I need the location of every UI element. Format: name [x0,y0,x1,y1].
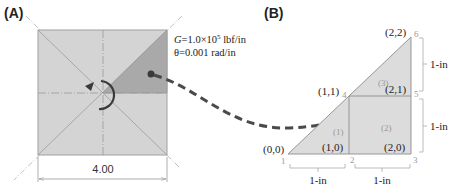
node-4-number: 4 [342,90,347,100]
dimension-bracket-bottom-right [355,164,410,168]
dimension-bracket-bottom-left [290,164,345,168]
node-2-number: 2 [350,155,355,165]
panel-a: (A) 4.00 G=1.0×105 lbf/in θ=0.001 rad/in [4,5,348,182]
node-5-number: 5 [414,89,419,99]
dimension-width-label: 4.00 [92,163,113,175]
node-5-coord: (2,1) [385,83,406,96]
dimension-bracket-right-lower [419,99,423,152]
node-6-coord: (2,2) [385,26,406,39]
dimension-bottom-right-label: 1-in [373,174,391,186]
node-2-coord: (1,0) [322,141,343,154]
diagram-canvas: (A) 4.00 G=1.0×105 lbf/in θ=0.001 rad/in [0,0,455,192]
node-1-coord: (0,0) [263,143,284,156]
node-1-number: 1 [281,156,286,166]
shear-modulus-label: G=1.0×105 lbf/in [174,33,247,45]
dimension-bottom-left-label: 1-in [309,174,327,186]
node-3-coord: (2,0) [384,141,405,154]
dashed-curved-arrow-icon [154,75,348,128]
triangular-domain [288,37,411,154]
panel-a-label: (A) [4,5,23,21]
node-6-number: 6 [414,29,419,39]
arrow-origin-dot [148,71,155,78]
dimension-bracket-right-upper [419,38,423,91]
element-1-label: (1) [333,127,344,137]
twist-angle-label: θ=0.001 rad/in [174,47,236,58]
panel-b-label: (B) [264,5,283,21]
node-3-number: 3 [413,155,418,165]
dimension-right-upper-label: 1-in [430,58,448,70]
panel-b: (B) (1) (2) (3) (0,0) (1,0) (2,0) (1,1) … [263,5,448,186]
element-2-label: (2) [381,123,392,133]
dimension-right-lower-label: 1-in [430,120,448,132]
node-4-coord: (1,1) [318,85,339,98]
